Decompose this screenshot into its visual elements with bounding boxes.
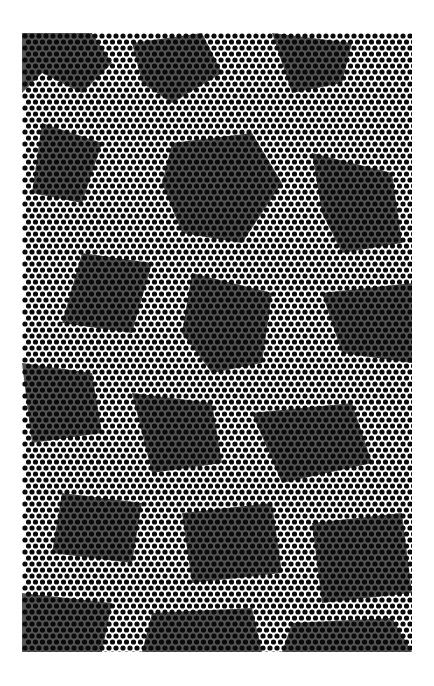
halftone-image: Abstract halftone dot pattern bbox=[22, 33, 412, 652]
halftone-canvas bbox=[22, 33, 412, 652]
